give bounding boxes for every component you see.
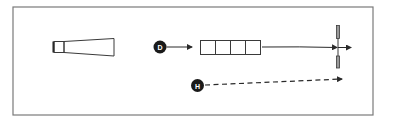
tapered-cone [53, 39, 115, 57]
node-h-label: H [195, 83, 200, 90]
dashed-arrow-h [205, 79, 342, 85]
rod-bottom [337, 56, 340, 68]
cone-collar [54, 42, 64, 53]
diagram-canvas: D H [0, 0, 402, 121]
node-d: D [154, 41, 167, 54]
vertical-rod-crosshair [337, 26, 352, 69]
arrow-box-to-crosshair [262, 47, 337, 48]
node-h: H [191, 79, 204, 92]
rod-top [337, 26, 340, 39]
segmented-box [201, 41, 261, 55]
cone-body [64, 39, 114, 57]
diagram-frame [13, 7, 373, 115]
node-d-label: D [157, 44, 162, 51]
